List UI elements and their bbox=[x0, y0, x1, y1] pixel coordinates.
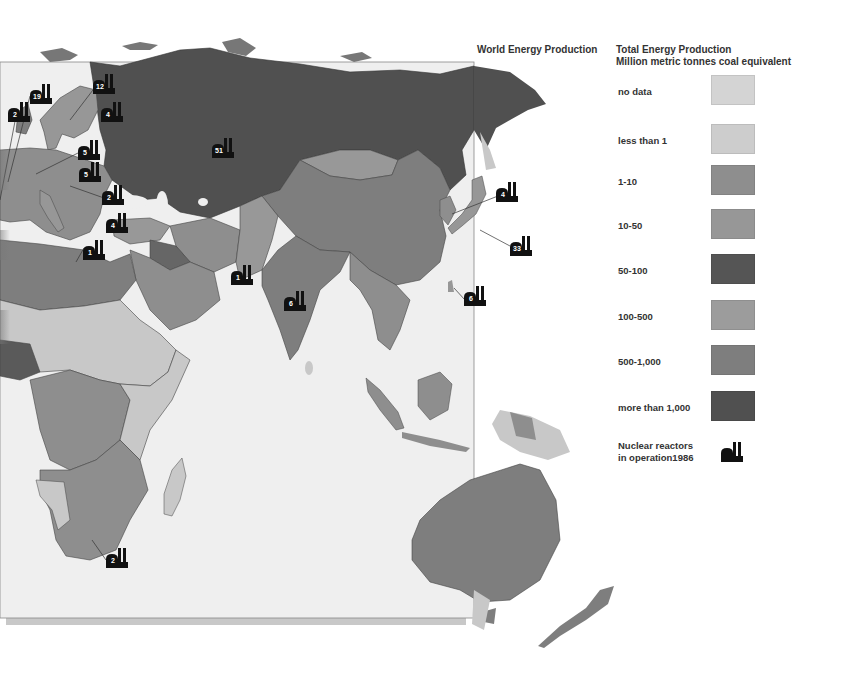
legend: Total Energy Production Million metric t… bbox=[616, 44, 846, 68]
legend-swatch bbox=[711, 345, 755, 375]
legend-label: 500-1,000 bbox=[618, 356, 661, 367]
region-new-zealand[interactable] bbox=[538, 586, 614, 648]
marker-count: 6 bbox=[285, 300, 297, 307]
legend-swatch bbox=[711, 165, 755, 195]
marker-count: 1 bbox=[232, 274, 244, 281]
legend-label: 50-100 bbox=[618, 265, 648, 276]
legend-swatch bbox=[711, 124, 755, 154]
marker-count: 4 bbox=[107, 222, 119, 229]
nuclear-marker-south-africa[interactable]: 2 bbox=[106, 548, 130, 568]
marker-count: 4 bbox=[497, 191, 509, 198]
legend-title: Total Energy Production bbox=[616, 44, 846, 56]
map-title: World Energy Production bbox=[477, 44, 597, 55]
legend-subtitle: Million metric tonnes coal equivalent bbox=[616, 56, 846, 68]
legend-swatch bbox=[711, 209, 755, 239]
legend-label: no data bbox=[618, 86, 652, 97]
marker-count: 6 bbox=[465, 295, 477, 302]
nuclear-marker-uk[interactable]: 19 bbox=[30, 84, 54, 104]
legend-item-50-100: 50-100 bbox=[616, 254, 846, 286]
region-sri-lanka[interactable] bbox=[305, 361, 313, 375]
nuclear-marker-east-germany[interactable]: 5 bbox=[78, 140, 102, 160]
region-far-east bbox=[474, 66, 546, 150]
caspian-sea bbox=[156, 191, 168, 219]
scan-blur-edge bbox=[0, 230, 10, 260]
aral-sea bbox=[198, 198, 208, 206]
nuclear-plant-icon bbox=[721, 442, 745, 462]
nuclear-legend-line1: Nuclear reactors bbox=[618, 440, 718, 452]
nuclear-marker-bulgaria[interactable]: 4 bbox=[106, 213, 130, 233]
nuclear-marker-japan[interactable]: 33 bbox=[510, 236, 534, 256]
nuclear-marker-sweden[interactable]: 12 bbox=[93, 74, 117, 94]
legend-swatch bbox=[711, 300, 755, 330]
legend-swatch bbox=[711, 391, 755, 421]
marker-count: 2 bbox=[107, 557, 119, 564]
marker-count: 2 bbox=[9, 111, 21, 118]
marker-count: 5 bbox=[80, 171, 92, 178]
nuclear-marker-india[interactable]: 6 bbox=[284, 291, 308, 311]
legend-label: 1-10 bbox=[618, 176, 637, 187]
marker-count: 51 bbox=[213, 147, 225, 154]
marker-count: 4 bbox=[102, 111, 114, 118]
legend-item-10-50: 10-50 bbox=[616, 209, 846, 241]
marker-count: 33 bbox=[511, 245, 523, 252]
nuclear-marker-pakistan[interactable]: 1 bbox=[231, 265, 255, 285]
legend-item-100-500: 100-500 bbox=[616, 300, 846, 332]
nuclear-marker-hungary[interactable]: 2 bbox=[102, 185, 126, 205]
legend-item-500-1000: 500-1,000 bbox=[616, 345, 846, 377]
nuclear-marker-taiwan[interactable]: 6 bbox=[464, 286, 488, 306]
legend-swatch bbox=[711, 254, 755, 284]
nuclear-marker-south-korea[interactable]: 4 bbox=[496, 182, 520, 202]
nuclear-marker-czechoslovakia[interactable]: 5 bbox=[79, 162, 103, 182]
scan-blur-edge bbox=[0, 150, 10, 190]
nuclear-marker-yugoslavia[interactable]: 1 bbox=[83, 240, 107, 260]
marker-count: 12 bbox=[94, 83, 106, 90]
legend-label: 100-500 bbox=[618, 311, 653, 322]
marker-count: 1 bbox=[84, 249, 96, 256]
nuclear-legend-label: Nuclear reactors in operation1986 bbox=[618, 440, 718, 464]
legend-item-no-data: no data bbox=[616, 75, 846, 107]
legend-label: less than 1 bbox=[618, 135, 667, 146]
marker-count: 5 bbox=[79, 149, 91, 156]
scan-blur-edge bbox=[0, 310, 10, 344]
legend-swatch bbox=[711, 75, 755, 105]
legend-item-less-than-1: less than 1 bbox=[616, 124, 846, 156]
nuclear-marker-ussr[interactable]: 51 bbox=[212, 138, 236, 158]
marker-count: 19 bbox=[31, 93, 43, 100]
nuclear-marker-netherlands[interactable]: 2 bbox=[8, 102, 32, 122]
legend-item-more-than-1000: more than 1,000 bbox=[616, 391, 846, 423]
legend-label: 10-50 bbox=[618, 220, 642, 231]
legend-item-1-10: 1-10 bbox=[616, 165, 846, 197]
nuclear-marker-finland[interactable]: 4 bbox=[101, 102, 125, 122]
legend-label: more than 1,000 bbox=[618, 402, 690, 413]
nuclear-legend-line2: in operation1986 bbox=[618, 452, 718, 464]
marker-count: 2 bbox=[103, 194, 115, 201]
